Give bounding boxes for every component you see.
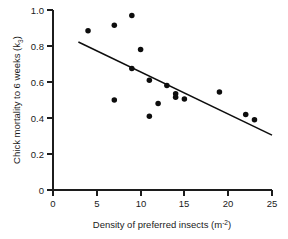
x-axis-title: Density of preferred insects (m-2) [93, 219, 231, 231]
data-point [173, 95, 179, 101]
y-axis-title: Chick mortality to 6 weeks (k3) [11, 36, 24, 164]
x-axis: 0 5 10 15 20 25 [50, 190, 277, 209]
x-axis-ticks [53, 190, 272, 196]
regression-line [78, 42, 272, 135]
data-point [243, 112, 249, 118]
x-tick-label-15: 15 [179, 198, 190, 209]
x-axis-title-tail: ) [228, 219, 231, 230]
data-point [217, 89, 223, 95]
data-point [252, 117, 258, 123]
y-tick-label-0.4: 0.4 [31, 113, 44, 124]
data-point [147, 77, 153, 83]
svg-text:Density of preferred insects (: Density of preferred insects (m-2) [93, 219, 231, 231]
x-tick-label-0: 0 [50, 198, 55, 209]
y-axis: 1.0 0.8 0.6 0.4 0.2 0 [31, 5, 53, 196]
y-tick-label-0.2: 0.2 [31, 149, 44, 160]
y-axis-title-main: Chick mortality to 6 weeks (k [11, 43, 22, 164]
data-point [112, 97, 118, 103]
data-point [138, 47, 144, 53]
x-axis-tick-labels: 0 5 10 15 20 25 [50, 198, 277, 209]
x-tick-label-5: 5 [94, 198, 99, 209]
chart-figure: 1.0 0.8 0.6 0.4 0.2 0 0 5 10 [0, 0, 288, 239]
x-tick-label-25: 25 [267, 198, 278, 209]
data-point [182, 96, 188, 102]
y-axis-ticks [47, 10, 53, 190]
y-tick-label-0.8: 0.8 [31, 41, 44, 52]
data-point [129, 66, 135, 72]
x-axis-title-main: Density of preferred insects (m [93, 219, 222, 230]
data-point [155, 101, 161, 107]
data-points-group [85, 13, 257, 123]
data-point [85, 28, 91, 34]
x-tick-label-20: 20 [223, 198, 234, 209]
y-tick-label-1.0: 1.0 [31, 5, 44, 16]
data-point [129, 13, 135, 19]
data-point [112, 23, 118, 29]
y-axis-title-tail: ) [11, 36, 22, 39]
y-tick-label-0: 0 [39, 185, 44, 196]
svg-text:Chick mortality to 6 weeks (k3: Chick mortality to 6 weeks (k3) [11, 36, 24, 164]
y-axis-tick-labels: 1.0 0.8 0.6 0.4 0.2 0 [31, 5, 44, 196]
x-tick-label-10: 10 [136, 198, 147, 209]
y-tick-label-0.6: 0.6 [31, 77, 44, 88]
data-point [164, 83, 170, 89]
data-point [147, 113, 153, 119]
scatter-plot: 1.0 0.8 0.6 0.4 0.2 0 0 5 10 [0, 0, 288, 239]
